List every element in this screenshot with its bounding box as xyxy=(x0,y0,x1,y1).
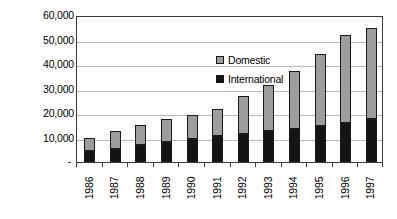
bar-segment-domestic xyxy=(238,96,249,134)
x-axis-year-label: 1992 xyxy=(236,168,248,208)
x-axis-year-label: 1996 xyxy=(339,168,351,208)
chart-legend: DomesticInternational xyxy=(216,52,324,90)
y-axis-tick-label: 10,000 xyxy=(30,133,74,144)
x-axis-tick xyxy=(281,163,282,167)
bar-segment-domestic xyxy=(84,138,95,151)
y-axis-tick-labels: -10,00020,00030,00040,00050,00060,000 xyxy=(30,0,74,219)
bar-group xyxy=(161,119,172,162)
x-axis-tick xyxy=(230,163,231,167)
x-axis-tick xyxy=(102,163,103,167)
x-axis-tick xyxy=(382,163,383,167)
bar-segment-domestic xyxy=(110,131,121,148)
bar-group xyxy=(238,96,249,162)
y-axis-tick-label: 50,000 xyxy=(30,35,74,46)
bar-group xyxy=(366,28,377,162)
bar-segment-domestic xyxy=(263,85,274,132)
x-axis-year-label: 1994 xyxy=(287,168,299,208)
y-axis-tick-label: 20,000 xyxy=(30,108,74,119)
bar-segment-domestic xyxy=(366,28,377,119)
legend-item-label: International xyxy=(228,73,283,85)
x-axis-tick xyxy=(76,163,77,167)
bar-segment-domestic xyxy=(340,35,351,123)
y-axis-tick-label: 30,000 xyxy=(30,84,74,95)
bar-group xyxy=(212,109,223,162)
x-axis-tick xyxy=(153,163,154,167)
x-axis-year-label: 1990 xyxy=(185,168,197,208)
bar-segment-international xyxy=(187,139,198,162)
bar-segment-international xyxy=(366,119,377,162)
x-axis-tick-labels: 1986198719881989199019911992199319941995… xyxy=(76,168,383,219)
x-axis-tick xyxy=(127,163,128,167)
passenger-stacked-bar-chart: Passengers x 1000 -10,00020,00030,00040,… xyxy=(0,0,397,219)
bar-group xyxy=(187,115,198,162)
bar-group xyxy=(84,138,95,163)
x-axis-year-label: 1997 xyxy=(364,168,376,208)
bar-segment-international xyxy=(315,126,326,162)
bar-segment-international xyxy=(110,149,121,162)
x-axis-tick xyxy=(178,163,179,167)
bar-group xyxy=(110,131,121,162)
x-axis-year-label: 1986 xyxy=(83,168,95,208)
y-axis-tick-label: 60,000 xyxy=(30,10,74,21)
bar-segment-domestic xyxy=(161,119,172,142)
x-axis-tick xyxy=(357,163,358,167)
bar-segment-international xyxy=(289,129,300,162)
legend-item: International xyxy=(216,71,324,87)
bar-group xyxy=(135,125,146,162)
bar-segment-international xyxy=(340,123,351,162)
x-axis-year-label: 1989 xyxy=(160,168,172,208)
bar-segment-international xyxy=(161,142,172,162)
bar-segment-domestic xyxy=(187,115,198,138)
bar-group xyxy=(263,85,274,162)
bar-segment-international xyxy=(263,131,274,162)
bar-group xyxy=(340,35,351,162)
x-axis-year-label: 1988 xyxy=(134,168,146,208)
bar-segment-international xyxy=(212,136,223,162)
y-axis-tick-label: 40,000 xyxy=(30,59,74,70)
x-axis-year-label: 1991 xyxy=(211,168,223,208)
legend-item-label: Domestic xyxy=(228,54,270,66)
bar-segment-domestic xyxy=(212,109,223,136)
bar-segment-international xyxy=(135,145,146,162)
bar-segment-domestic xyxy=(135,125,146,145)
x-axis-tick xyxy=(255,163,256,167)
bar-segment-international xyxy=(238,134,249,162)
x-axis-year-label: 1995 xyxy=(313,168,325,208)
x-axis-tick xyxy=(306,163,307,167)
plot-area: DomesticInternational xyxy=(76,16,383,163)
x-axis-year-label: 1993 xyxy=(262,168,274,208)
legend-swatch-international-icon xyxy=(216,75,224,83)
legend-item: Domestic xyxy=(216,52,324,68)
y-axis-zero-dash: - xyxy=(68,156,72,167)
x-axis-year-label: 1987 xyxy=(108,168,120,208)
x-axis-tick xyxy=(332,163,333,167)
x-axis-tick xyxy=(204,163,205,167)
bar-segment-international xyxy=(84,151,95,162)
legend-swatch-domestic-icon xyxy=(216,56,224,64)
